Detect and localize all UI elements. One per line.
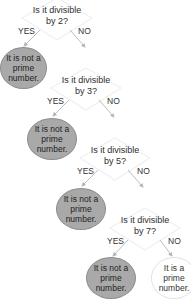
no-label-1: NO bbox=[78, 26, 91, 36]
outcome-not-prime-1: It is not a prime number. bbox=[0, 47, 47, 89]
yes-label-1: YES bbox=[18, 26, 35, 36]
question-4: Is it divisible by 7? bbox=[105, 215, 185, 237]
outcome-prime: It is a prime number. bbox=[151, 257, 191, 299]
no-label-3: NO bbox=[137, 166, 150, 176]
question-2-line1: Is it divisible bbox=[62, 75, 111, 85]
no-label-2: NO bbox=[107, 96, 120, 106]
question-4-line1: Is it divisible bbox=[121, 215, 170, 225]
question-3: Is it divisible by 5? bbox=[75, 145, 155, 167]
question-1-line2: by 2? bbox=[46, 16, 68, 26]
no-label-4: NO bbox=[168, 236, 181, 246]
question-2-line2: by 3? bbox=[75, 86, 97, 96]
question-1: Is it divisible by 2? bbox=[17, 5, 97, 27]
question-3-line1: Is it divisible bbox=[91, 145, 140, 155]
yes-label-3: YES bbox=[77, 166, 94, 176]
question-4-line2: by 7? bbox=[134, 226, 156, 236]
outcome-not-prime-4: It is not a prime number. bbox=[86, 257, 136, 299]
question-1-line1: Is it divisible bbox=[33, 5, 82, 15]
yes-label-2: YES bbox=[47, 96, 64, 106]
question-3-line2: by 5? bbox=[104, 156, 126, 166]
yes-label-4: YES bbox=[107, 236, 124, 246]
outcome-not-prime-2: It is not a prime number. bbox=[27, 118, 77, 160]
question-2: Is it divisible by 3? bbox=[46, 75, 126, 97]
outcome-not-prime-3: It is not a prime number. bbox=[56, 188, 106, 230]
